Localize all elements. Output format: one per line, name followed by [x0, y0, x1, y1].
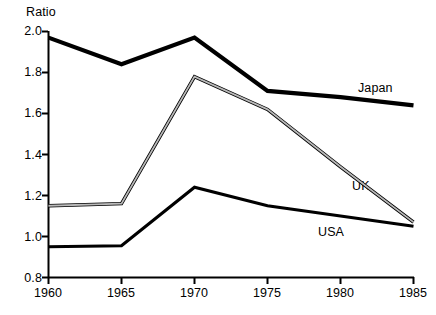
series-line-japan: [49, 38, 414, 106]
series-line-usa: [49, 187, 414, 246]
series-group: [49, 38, 414, 247]
chart-container: Ratio 2.0 1.8 1.6 1.4 1.2 1.0 0.8 1960 1…: [0, 0, 436, 315]
plot-area: [0, 0, 436, 315]
